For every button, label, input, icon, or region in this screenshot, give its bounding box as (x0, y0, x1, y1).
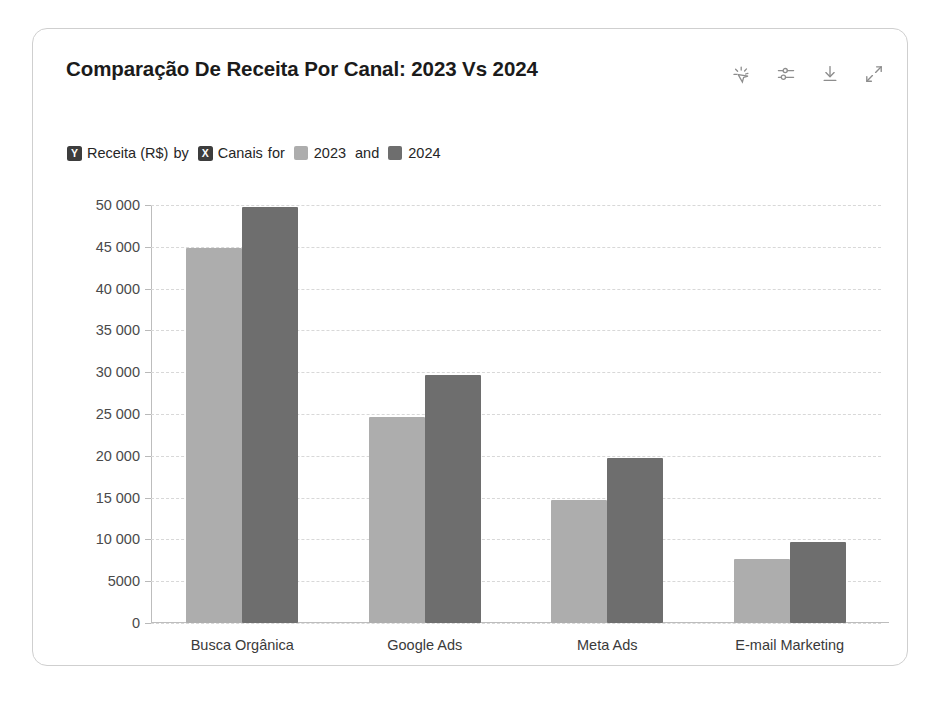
bar-2023[interactable] (734, 559, 790, 623)
bar-2024[interactable] (242, 207, 298, 623)
bar-group: Google Ads (334, 205, 517, 623)
x-axis-badge: X (198, 146, 213, 161)
gridline (151, 623, 881, 624)
bars-layer: Busca OrgânicaGoogle AdsMeta AdsE-mail M… (151, 205, 881, 623)
y-axis-badge: Y (67, 146, 82, 161)
legend-swatch-2024 (388, 146, 402, 160)
legend-label-2023: 2023 (314, 145, 346, 161)
bar-2023[interactable] (551, 500, 607, 623)
y-axis-tick-label: 0 (132, 615, 140, 631)
filter-sliders-icon[interactable] (775, 63, 797, 85)
y-axis-tick-label: 25 000 (96, 406, 140, 422)
bar-group: Meta Ads (516, 205, 699, 623)
chart-subtitle: Y Receita (R$) by X Canais for 2023 and … (67, 143, 441, 163)
expand-icon[interactable] (863, 63, 885, 85)
legend-swatch-2023 (294, 146, 308, 160)
y-axis-tick-label: 15 000 (96, 490, 140, 506)
bar-group: Busca Orgânica (151, 205, 334, 623)
bar-group: E-mail Marketing (699, 205, 882, 623)
y-axis-tick-label: 20 000 (96, 448, 140, 464)
bar-2023[interactable] (369, 417, 425, 623)
download-icon[interactable] (819, 63, 841, 85)
for-word: for (268, 145, 285, 161)
legend-label-2024: 2024 (408, 145, 440, 161)
bar-2024[interactable] (790, 542, 846, 623)
y-axis-tick-label: 40 000 (96, 281, 140, 297)
by-word: by (173, 145, 188, 161)
x-dimension-label: Canais (218, 145, 263, 161)
page-title: Comparação De Receita Por Canal: 2023 Vs… (66, 57, 538, 81)
chart-toolbar (731, 63, 885, 85)
y-axis-tick-label: 5000 (108, 573, 140, 589)
y-measure-label: Receita (R$) (87, 145, 168, 161)
bar-2024[interactable] (425, 375, 481, 623)
y-axis-tick-label: 45 000 (96, 239, 140, 255)
card-header: Comparação De Receita Por Canal: 2023 Vs… (33, 29, 907, 91)
y-axis-tick-mark (145, 623, 151, 624)
chart-card: Comparação De Receita Por Canal: 2023 Vs… (32, 28, 908, 666)
y-axis-tick-label: 30 000 (96, 364, 140, 380)
ai-insights-icon[interactable] (731, 63, 753, 85)
bar-2024[interactable] (607, 458, 663, 623)
x-axis-tick-label: E-mail Marketing (690, 637, 890, 653)
plot-wrap: 0500010 00015 00020 00025 00030 00035 00… (33, 173, 909, 667)
bar-2023[interactable] (186, 248, 242, 623)
y-axis-tick-label: 50 000 (96, 197, 140, 213)
y-axis-tick-label: 35 000 (96, 322, 140, 338)
y-axis-tick-label: 10 000 (96, 531, 140, 547)
plot-area: 0500010 00015 00020 00025 00030 00035 00… (151, 205, 881, 623)
x-axis-tick-label: Busca Orgânica (142, 637, 342, 653)
and-word: and (355, 145, 379, 161)
x-axis-tick-label: Meta Ads (507, 637, 707, 653)
x-axis-tick-label: Google Ads (325, 637, 525, 653)
